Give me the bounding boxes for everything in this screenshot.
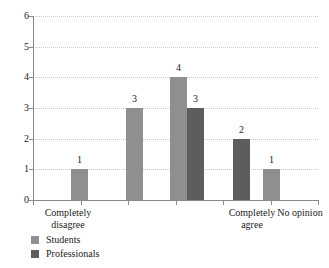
- chart-legend: StudentsProfessionals: [31, 233, 99, 261]
- plot-area: 134321: [33, 16, 318, 200]
- y-axis-tick-label: 0: [15, 195, 29, 205]
- bar-students-cat0: [71, 169, 88, 200]
- x-axis-tick: [223, 200, 224, 205]
- x-axis-tick: [128, 200, 129, 205]
- legend-swatch-icon: [31, 236, 39, 244]
- x-axis-category-label: Completelydisagree: [20, 207, 116, 230]
- x-axis-category-label-line: disagree: [20, 219, 116, 231]
- bar-chart: 0123456 134321 CompletelydisagreeComplet…: [0, 0, 329, 268]
- x-axis-category-label: No opinion: [252, 207, 329, 219]
- bar-value-label: 4: [169, 63, 189, 73]
- y-axis-tick-label: 4: [15, 72, 29, 82]
- x-axis-tick: [318, 200, 319, 205]
- gridline: [33, 16, 318, 17]
- legend-swatch-icon: [31, 250, 39, 258]
- bar-students-cat4: [263, 169, 280, 200]
- y-axis-labels: 0123456: [15, 16, 29, 201]
- legend-label: Students: [46, 235, 80, 245]
- y-axis-line: [33, 16, 34, 201]
- bar-professionals-cat2: [187, 108, 204, 200]
- bar-value-label: 1: [70, 155, 90, 165]
- x-axis-tick: [176, 200, 177, 205]
- y-axis-tick-label: 2: [15, 134, 29, 144]
- y-axis-tick-label: 6: [15, 11, 29, 21]
- bar-students-cat1: [126, 108, 143, 200]
- gridline: [33, 47, 318, 48]
- y-axis-tick-label: 1: [15, 164, 29, 174]
- legend-item-professionals[interactable]: Professionals: [31, 247, 99, 261]
- legend-item-students[interactable]: Students: [31, 233, 99, 247]
- x-axis-category-label-line: agree: [204, 219, 300, 231]
- bar-value-label: 2: [232, 125, 252, 135]
- x-axis-category-label-line: Completely: [20, 207, 116, 219]
- bar-professionals-cat3: [233, 139, 250, 200]
- x-axis-category-label-line: No opinion: [252, 207, 329, 219]
- x-axis-tick: [33, 200, 34, 205]
- bar-value-label: 3: [125, 94, 145, 104]
- bar-students-cat2: [170, 77, 187, 200]
- bar-value-label: 3: [186, 94, 206, 104]
- legend-label: Professionals: [46, 249, 99, 259]
- y-axis-tick-label: 3: [15, 103, 29, 113]
- x-axis-tick: [81, 200, 82, 205]
- x-axis-tick: [271, 200, 272, 205]
- bar-value-label: 1: [262, 155, 282, 165]
- y-axis-tick-label: 5: [15, 42, 29, 52]
